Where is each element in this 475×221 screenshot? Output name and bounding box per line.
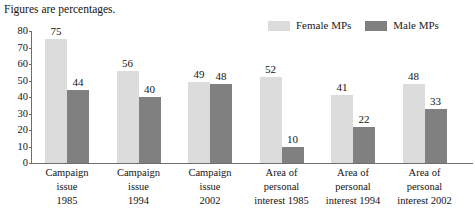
bar-value-label: 33 [430,96,441,107]
bar-female[interactable] [45,39,67,163]
x-axis-label: Area ofpersonalinterest 1985 [247,166,317,208]
bar-pair: 5640 [117,31,161,163]
x-axis-line [29,163,473,164]
x-axis-label: Area ofpersonalinterest 2002 [390,166,460,208]
x-axis-label-line: issue [104,180,174,194]
bar-value-label: 40 [144,84,155,95]
x-axis-label-line: Campaign [175,166,245,180]
bar-slot: 40 [139,31,161,163]
x-axis-label: Campaignissue2002 [175,166,245,208]
bar-pair: 5210 [260,31,304,163]
bar-male[interactable] [353,127,375,163]
bar-value-label: 48 [216,71,227,82]
x-axis-label: Area ofpersonalinterest 1994 [318,166,388,208]
y-axis-tick-label: 70 [18,43,29,53]
bar-group: 5640 [117,31,161,163]
bar-group: 4833 [403,31,447,163]
bar-male[interactable] [67,90,89,163]
x-axis-label-line: personal [390,180,460,194]
y-axis-tick-label: 20 [18,125,29,135]
bar-slot: 48 [210,31,232,163]
y-axis-tick-label: 60 [18,59,29,69]
bar-value-label: 75 [51,26,62,37]
plot-area: 01020304050607080 7544564049485210412248… [31,31,472,163]
bar-value-label: 49 [194,69,205,80]
bar-female[interactable] [403,84,425,163]
legend-item-male: Male MPs [365,20,439,31]
x-axis-label-line: issue [175,180,245,194]
bar-slot: 75 [45,31,67,163]
y-axis-tick-label: 0 [23,158,28,168]
bar-female[interactable] [331,95,353,163]
x-axis-label-line: Campaign [32,166,102,180]
bar-pair: 4833 [403,31,447,163]
legend-swatch-male-icon [365,21,387,31]
bar-value-label: 44 [73,77,84,88]
x-axis-label-line: 1994 [104,194,174,208]
x-axis-label-line: interest 2002 [390,194,460,208]
bar-groups: 754456404948521041224833 [31,31,472,163]
x-axis-label-line: 2002 [175,194,245,208]
y-axis-tick-label: 80 [18,26,29,36]
x-axis-label-line: Campaign [104,166,174,180]
bar-group: 4948 [188,31,232,163]
bar-male[interactable] [210,84,232,163]
x-axis-label-line: 1985 [32,194,102,208]
legend-swatch-female-icon [268,21,290,31]
x-axis-label-line: Area of [247,166,317,180]
legend-label-male: Male MPs [393,20,439,31]
bar-value-label: 10 [287,134,298,145]
bar-value-label: 22 [359,114,370,125]
bar-value-label: 48 [408,71,419,82]
x-axis-label-line: interest 1985 [247,194,317,208]
bar-slot: 48 [403,31,425,163]
legend-label-female: Female MPs [296,20,351,31]
bar-slot: 49 [188,31,210,163]
x-axis-label-line: Area of [390,166,460,180]
x-axis-label-line: interest 1994 [318,194,388,208]
x-axis-label-line: personal [318,180,388,194]
bar-female[interactable] [188,82,210,163]
bar-slot: 33 [425,31,447,163]
y-axis-tick-mark [29,163,32,164]
bar-male[interactable] [425,109,447,163]
x-axis-label: Campaignissue1985 [32,166,102,208]
bar-value-label: 41 [337,82,348,93]
bar-slot: 22 [353,31,375,163]
bar-slot: 52 [260,31,282,163]
y-axis-tick-label: 30 [18,109,29,119]
bar-female[interactable] [260,77,282,163]
chart-legend: Female MPs Male MPs [268,20,439,31]
x-axis-label-line: personal [247,180,317,194]
bar-value-label: 52 [265,64,276,75]
bar-female[interactable] [117,71,139,163]
bar-slot: 44 [67,31,89,163]
y-axis-tick-label: 10 [18,142,29,152]
x-axis-label: Campaignissue1994 [104,166,174,208]
bar-pair: 4122 [331,31,375,163]
bar-group: 4122 [331,31,375,163]
bar-group: 5210 [260,31,304,163]
bar-slot: 10 [282,31,304,163]
bar-slot: 56 [117,31,139,163]
bar-group: 7544 [45,31,89,163]
bar-pair: 7544 [45,31,89,163]
y-axis-tick-label: 50 [18,76,29,86]
bar-male[interactable] [282,147,304,164]
x-axis-labels: Campaignissue1985Campaignissue1994Campai… [31,166,472,221]
y-axis-tick-label: 40 [18,92,29,102]
x-axis-label-line: issue [32,180,102,194]
x-axis-label-line: Area of [318,166,388,180]
bar-value-label: 56 [122,58,133,69]
bar-slot: 41 [331,31,353,163]
legend-item-female: Female MPs [268,20,351,31]
bar-pair: 4948 [188,31,232,163]
chart-note: Figures are percentages. [4,3,115,16]
bar-chart-figure: Figures are percentages. Female MPs Male… [0,0,475,221]
bar-male[interactable] [139,97,161,163]
